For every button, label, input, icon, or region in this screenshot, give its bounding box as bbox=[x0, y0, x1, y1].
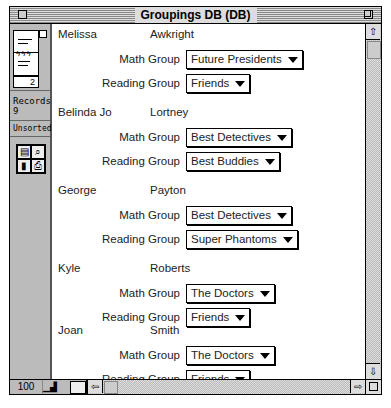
first-name[interactable]: George bbox=[58, 184, 96, 196]
dropdown-arrow-icon bbox=[283, 237, 293, 243]
book-rings: ϟϟϟ bbox=[16, 50, 32, 58]
popup-value: Super Phantoms bbox=[191, 233, 277, 245]
reading-group-label: Reading Group bbox=[52, 233, 180, 245]
dropdown-arrow-icon bbox=[288, 57, 298, 63]
status-area-toggle-icon[interactable] bbox=[70, 381, 86, 394]
layout-icon[interactable]: ▤ bbox=[17, 145, 31, 159]
resize-grow-box[interactable] bbox=[365, 380, 381, 394]
dropdown-arrow-icon bbox=[277, 213, 287, 219]
page-number: 2 bbox=[13, 76, 39, 88]
scroll-down-arrow-icon[interactable]: ⇩ bbox=[366, 363, 380, 379]
divider bbox=[10, 120, 50, 121]
math-group-popup[interactable]: The Doctors bbox=[186, 284, 275, 303]
math-group-popup[interactable]: Best Detectives bbox=[186, 206, 292, 225]
math-group-label: Math Group bbox=[52, 349, 180, 361]
record[interactable]: Joan Smith Math Group The Doctors Readin… bbox=[52, 320, 365, 379]
record-list: Melissa Awkright Math Group Future Presi… bbox=[52, 24, 365, 379]
records-count: Records: 9 bbox=[13, 96, 56, 116]
zoom-level[interactable]: 100 bbox=[10, 380, 43, 394]
records-value: 9 bbox=[13, 106, 18, 116]
record[interactable]: Melissa Awkright Math Group Future Presi… bbox=[52, 24, 365, 102]
zoom-in-out-icon[interactable]: ▁▟ bbox=[43, 380, 69, 394]
popup-value: Future Presidents bbox=[191, 53, 282, 65]
math-group-label: Math Group bbox=[52, 131, 180, 143]
status-panel: ϟϟϟ 2 Records: 9 Unsorted ▤ ⌕ ▮ ⎙ bbox=[10, 24, 52, 379]
line bbox=[18, 43, 28, 44]
popup-value: Friends bbox=[191, 77, 229, 89]
dropdown-arrow-icon bbox=[260, 291, 270, 297]
dropdown-arrow-icon bbox=[277, 135, 287, 141]
records-label: Records: bbox=[13, 96, 56, 106]
scroll-up-arrow-icon[interactable]: ⇧ bbox=[366, 24, 380, 40]
vertical-scrollbar[interactable]: ⇧ ⇩ bbox=[365, 24, 381, 379]
first-name[interactable]: Kyle bbox=[58, 262, 80, 274]
line bbox=[18, 61, 30, 62]
reading-group-label: Reading Group bbox=[52, 77, 180, 89]
record-book-icon[interactable]: ϟϟϟ 2 bbox=[13, 30, 45, 86]
print-icon[interactable]: ⎙ bbox=[31, 159, 45, 173]
zoom-box[interactable] bbox=[364, 10, 373, 19]
math-group-label: Math Group bbox=[52, 53, 180, 65]
scroll-right-arrow-icon[interactable]: ⇨ bbox=[350, 380, 365, 393]
dropdown-arrow-icon bbox=[260, 353, 270, 359]
record[interactable]: Belinda Jo Lortney Math Group Best Detec… bbox=[52, 102, 365, 180]
tool-palette: ▤ ⌕ ▮ ⎙ bbox=[16, 144, 46, 174]
math-group-label: Math Group bbox=[52, 209, 180, 221]
close-box[interactable] bbox=[18, 10, 27, 19]
math-group-popup[interactable]: Future Presidents bbox=[186, 50, 303, 69]
reading-group-popup[interactable]: Friends bbox=[186, 74, 250, 93]
divider bbox=[10, 136, 50, 137]
math-group-popup[interactable]: Best Detectives bbox=[186, 128, 292, 147]
popup-value: The Doctors bbox=[191, 349, 254, 361]
popup-value: Best Buddies bbox=[191, 155, 259, 167]
horizontal-scrollbar[interactable]: ⇦ ⇨ bbox=[86, 380, 365, 394]
last-name[interactable]: Smith bbox=[150, 324, 179, 336]
scroll-thumb[interactable] bbox=[367, 41, 381, 59]
window-title: Groupings DB (DB) bbox=[135, 7, 257, 23]
divider bbox=[10, 90, 50, 91]
first-name[interactable]: Melissa bbox=[58, 28, 97, 40]
record[interactable]: George Payton Math Group Best Detectives… bbox=[52, 180, 365, 258]
scroll-left-arrow-icon[interactable]: ⇦ bbox=[88, 380, 103, 393]
last-name[interactable]: Roberts bbox=[150, 262, 190, 274]
math-group-label: Math Group bbox=[52, 287, 180, 299]
dropdown-arrow-icon bbox=[235, 81, 245, 87]
popup-value: The Doctors bbox=[191, 287, 254, 299]
chart-icon[interactable]: ▮ bbox=[17, 159, 31, 173]
reading-group-label: Reading Group bbox=[52, 155, 180, 167]
math-group-popup[interactable]: The Doctors bbox=[186, 346, 275, 365]
find-icon[interactable]: ⌕ bbox=[31, 145, 45, 159]
line bbox=[18, 39, 32, 40]
reading-group-popup[interactable]: Super Phantoms bbox=[186, 230, 298, 249]
last-name[interactable]: Payton bbox=[150, 184, 186, 196]
last-name[interactable]: Lortney bbox=[150, 106, 188, 118]
title-bar[interactable]: Groupings DB (DB) bbox=[10, 7, 381, 24]
line bbox=[18, 65, 28, 66]
bottom-bar: 100 ▁▟ ⇦ ⇨ bbox=[10, 379, 381, 394]
first-name[interactable]: Belinda Jo bbox=[58, 106, 112, 118]
popup-value: Best Detectives bbox=[191, 209, 271, 221]
dropdown-arrow-icon bbox=[265, 159, 275, 165]
reading-group-popup[interactable]: Best Buddies bbox=[186, 152, 280, 171]
first-name[interactable]: Joan bbox=[58, 324, 83, 336]
popup-value: Best Detectives bbox=[191, 131, 271, 143]
horizontal-scroll-thumb[interactable] bbox=[104, 381, 118, 394]
last-name[interactable]: Awkright bbox=[150, 28, 194, 40]
database-window: Groupings DB (DB) ϟϟϟ 2 Records: 9 Unsor… bbox=[9, 6, 382, 395]
sort-status: Unsorted bbox=[13, 124, 52, 133]
bookmark-tab[interactable] bbox=[39, 30, 47, 38]
reading-group-popup[interactable]: Friends bbox=[186, 370, 250, 379]
